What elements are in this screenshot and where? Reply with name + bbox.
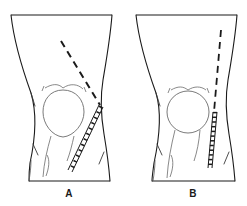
panel-label-a: A [54,188,84,199]
knee-diagram-svg [0,0,247,206]
figure-background [0,0,247,206]
panel-label-b: B [178,188,208,199]
figure-root: A B [0,0,247,206]
